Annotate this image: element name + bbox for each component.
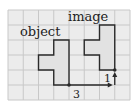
object-label: object	[20, 24, 61, 39]
vertical-shift-label: 1	[104, 72, 111, 85]
translation-diagram: object image 3 1	[0, 0, 139, 107]
end-point	[113, 68, 117, 72]
image-label: image	[68, 9, 109, 24]
start-point	[67, 83, 71, 87]
horizontal-shift-label: 3	[73, 88, 80, 101]
